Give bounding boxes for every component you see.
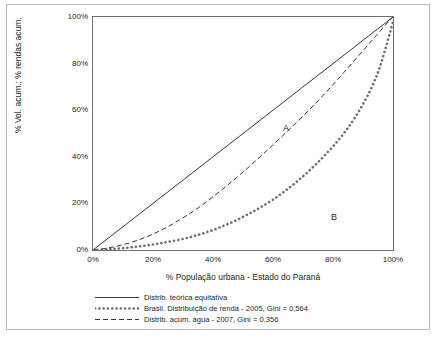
y-tick-40: 40% [72,153,88,161]
annotation-a: A [283,124,289,133]
y-axis-label: % Vol. acum.; % rendas acum. [14,17,23,133]
x-axis-label: % População urbana - Estado do Paraná [92,272,394,282]
plot-lines [93,17,393,250]
x-tick-60: 60% [265,256,281,264]
legend-label-agua: Distrib. acum. água - 2007, Gini = 0,356 [144,314,278,325]
x-tick-100: 100% [383,256,403,264]
y-tick-80: 80% [72,60,88,68]
plot-area: 0% 20% 40% 60% 80% 100% 0% 20% 40% 60% 8… [92,16,394,251]
legend-label-renda: Brasil. Distribuição de renda - 2005, Gi… [144,303,308,314]
chart-figure: % Vol. acum.; % rendas acum. 0% 20% 40% … [0,0,440,338]
legend-key-dashed-thin [95,314,139,325]
legend-key-dotted-thick [95,303,139,314]
series-line-equitativa [93,17,393,250]
x-tick-0: 0% [87,256,99,264]
series-line-renda [93,22,393,250]
chart-legend: Distrib. teórica equitativa Brasil. Dist… [95,292,355,325]
legend-key-solid-thin [95,292,139,303]
x-tick-80: 80% [325,256,341,264]
y-tick-60: 60% [72,106,88,114]
legend-label-equitativa: Distrib. teórica equitativa [144,292,227,303]
annotation-b: B [331,213,337,222]
legend-item-renda: Brasil. Distribuição de renda - 2005, Gi… [95,303,355,314]
y-tick-20: 20% [72,199,88,207]
y-tick-0: 0% [76,246,88,254]
y-tick-100: 100% [68,13,88,21]
x-tick-40: 40% [205,256,221,264]
legend-item-equitativa: Distrib. teórica equitativa [95,292,355,303]
legend-item-agua: Distrib. acum. água - 2007, Gini = 0,356 [95,314,355,325]
x-tick-20: 20% [145,256,161,264]
